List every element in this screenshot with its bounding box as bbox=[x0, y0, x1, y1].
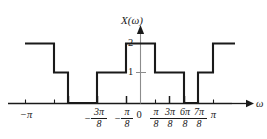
fraction-numerator: 3π bbox=[90, 107, 108, 117]
x-axis-arrowhead bbox=[246, 100, 254, 108]
fraction-numerator: 7π bbox=[190, 107, 208, 117]
x-axis-label: ω bbox=[256, 98, 263, 109]
x-tick-label-neg-3pi-8: 3π 8 bbox=[90, 107, 108, 129]
y-axis-arrowhead bbox=[137, 25, 144, 34]
fraction-denominator: 8 bbox=[190, 119, 208, 129]
x-tick-label-zero: 0 bbox=[132, 110, 146, 121]
fraction-denominator: 8 bbox=[90, 119, 108, 129]
y-tick-label-1: 1 bbox=[128, 66, 133, 77]
x-tick-label-neg-pi: −π bbox=[16, 110, 36, 121]
figure-spectrum-plot: X(ω) 2 1 ω −π 0 π − 3π 8 − π 8 π 8 3π 8 … bbox=[0, 0, 267, 139]
x-tick-label-neg-pi-8: π 8 bbox=[120, 107, 134, 129]
y-tick-label-2: 2 bbox=[128, 37, 133, 48]
fraction-numerator: π bbox=[120, 107, 134, 117]
fraction-denominator: 8 bbox=[120, 119, 134, 129]
plot-title: X(ω) bbox=[121, 14, 143, 26]
x-tick-label-pos-7pi-8: 7π 8 bbox=[190, 107, 208, 129]
